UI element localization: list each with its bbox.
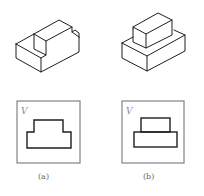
small-box-top-front (133, 20, 172, 34)
upper-block-top-edge (46, 27, 72, 41)
base-front-right-face (41, 37, 79, 72)
front-view-a: V (a) (17, 101, 80, 181)
profile-a (27, 120, 71, 148)
isometric-figure-b (122, 13, 185, 71)
technical-drawing: V (a) V (b) (0, 0, 204, 196)
large-box-top-left (122, 37, 133, 43)
isometric-figure-a (16, 20, 79, 72)
caption-b: (b) (143, 172, 154, 181)
profile-b-bottom (134, 132, 177, 147)
view-label-b: V (126, 106, 134, 116)
upper-block (34, 20, 79, 37)
caption-a: (a) (38, 172, 49, 181)
large-box (122, 30, 185, 71)
step-top (16, 34, 34, 44)
base-front-left-face (16, 44, 41, 72)
front-view-b: V (b) (122, 101, 184, 181)
view-label-a: V (21, 106, 29, 116)
profile-b-top (141, 118, 170, 132)
